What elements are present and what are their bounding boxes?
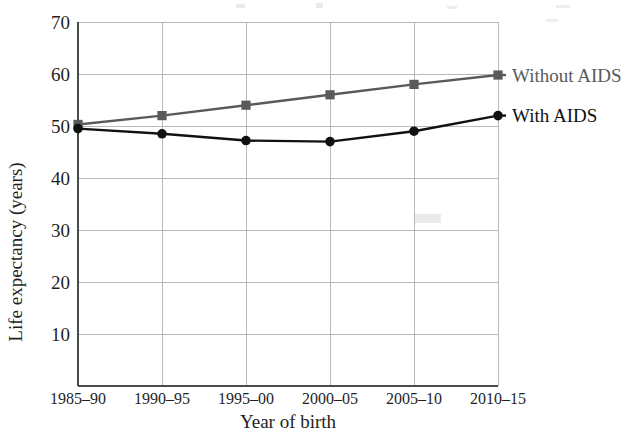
y-tick-label: 60	[51, 64, 70, 85]
y-tick-label: 10	[51, 324, 70, 345]
y-tick-label: 20	[51, 272, 70, 293]
line-chart: 70 60 50 40 30 20 10 1985–90 1990–95 199…	[0, 0, 640, 436]
x-tick-label: 2000–05	[302, 390, 358, 407]
y-axis-title: Life expectancy (years)	[5, 162, 27, 341]
x-tick-label: 1990–95	[134, 390, 190, 407]
y-tick-label: 50	[51, 116, 70, 137]
y-tick-label: 30	[51, 220, 70, 241]
data-point	[325, 90, 334, 99]
series-label-without-aids: Without AIDS	[512, 65, 622, 86]
data-point	[157, 129, 167, 139]
data-point	[409, 80, 418, 89]
series-label-with-aids: With AIDS	[512, 105, 597, 126]
data-point	[241, 136, 251, 146]
data-point	[409, 126, 419, 136]
x-tick-label: 2005–10	[386, 390, 442, 407]
y-tick-label: 70	[51, 12, 70, 33]
data-point	[73, 124, 83, 134]
data-point	[157, 111, 166, 120]
x-tick-label: 1995–00	[218, 390, 274, 407]
y-tick-label: 40	[51, 168, 70, 189]
x-tick-label: 2010–15	[470, 390, 526, 407]
x-axis-title: Year of birth	[240, 411, 337, 432]
x-tick-label: 1985–90	[50, 390, 106, 407]
data-point	[241, 101, 250, 110]
data-point	[325, 137, 335, 147]
chart-canvas: 70 60 50 40 30 20 10 1985–90 1990–95 199…	[0, 0, 640, 436]
